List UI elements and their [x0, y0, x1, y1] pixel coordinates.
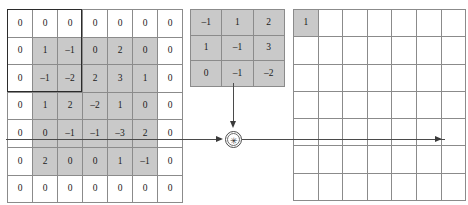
input-matrix-row: 00–1–1–320	[8, 120, 183, 148]
convolution-operator: ✳	[225, 131, 242, 148]
matrix-cell: 0	[33, 10, 58, 38]
matrix-cell: 0	[33, 120, 58, 148]
matrix-cell: –3	[108, 120, 133, 148]
matrix-cell: 2	[83, 65, 108, 93]
matrix-cell: 2	[33, 147, 58, 175]
matrix-cell	[294, 37, 319, 64]
matrix-cell	[416, 91, 441, 118]
output-matrix-row	[294, 37, 466, 64]
matrix-cell: –1	[191, 10, 222, 36]
arrowhead-kernel-into-operator	[230, 121, 236, 128]
matrix-cell: 2	[58, 92, 83, 120]
matrix-cell	[318, 64, 343, 91]
kernel-matrix-row: 1–13	[191, 35, 285, 61]
matrix-cell: 0	[108, 10, 133, 38]
kernel-matrix-row: –112	[191, 10, 285, 36]
input-matrix-row: 0000000	[8, 175, 183, 203]
arrowhead-into-operator	[216, 136, 223, 142]
matrix-cell: 0	[83, 175, 108, 203]
input-matrix-row: 01–10200	[8, 37, 183, 65]
matrix-cell	[318, 119, 343, 146]
matrix-cell	[441, 10, 466, 37]
convolution-diagram: 000000001–102000–1–22310012–210000–1–1–3…	[0, 0, 468, 205]
matrix-cell: 1	[33, 92, 58, 120]
matrix-cell: –2	[58, 65, 83, 93]
matrix-cell	[343, 64, 368, 91]
matrix-cell	[392, 173, 417, 200]
matrix-cell: –1	[83, 120, 108, 148]
matrix-cell	[416, 37, 441, 64]
matrix-cell: 0	[133, 92, 158, 120]
matrix-cell	[416, 173, 441, 200]
matrix-cell: 0	[8, 10, 33, 38]
matrix-cell	[294, 119, 319, 146]
matrix-cell: –1	[33, 65, 58, 93]
matrix-cell	[441, 37, 466, 64]
matrix-cell: 0	[8, 37, 33, 65]
matrix-cell: 2	[108, 37, 133, 65]
matrix-cell	[318, 37, 343, 64]
matrix-cell: –1	[58, 37, 83, 65]
matrix-cell: 0	[158, 92, 183, 120]
matrix-cell	[367, 10, 392, 37]
matrix-cell	[392, 91, 417, 118]
matrix-cell	[318, 173, 343, 200]
matrix-cell: 0	[8, 120, 33, 148]
matrix-cell: 2	[133, 120, 158, 148]
matrix-cell	[367, 91, 392, 118]
matrix-cell: 0	[133, 10, 158, 38]
output-matrix-row	[294, 119, 466, 146]
matrix-cell	[343, 10, 368, 37]
input-matrix-row: 012–2100	[8, 92, 183, 120]
output-matrix-row	[294, 173, 466, 200]
matrix-cell: –1	[133, 147, 158, 175]
matrix-cell	[294, 64, 319, 91]
matrix-cell	[367, 37, 392, 64]
arrowhead-into-output	[435, 136, 442, 142]
matrix-cell: –1	[58, 120, 83, 148]
wire-input-to-operator	[6, 139, 218, 140]
matrix-cell	[318, 146, 343, 173]
matrix-cell: 1	[108, 147, 133, 175]
output-matrix-row	[294, 91, 466, 118]
matrix-cell	[441, 64, 466, 91]
output-matrix: 1	[293, 9, 466, 201]
matrix-cell: 0	[158, 175, 183, 203]
kernel-matrix-row: 0–1–2	[191, 61, 285, 87]
input-matrix-row: 02001–10	[8, 147, 183, 175]
matrix-cell: 0	[133, 175, 158, 203]
matrix-cell	[367, 119, 392, 146]
output-matrix-row	[294, 64, 466, 91]
matrix-cell: –2	[83, 92, 108, 120]
matrix-cell	[343, 91, 368, 118]
matrix-cell: 1	[133, 65, 158, 93]
matrix-cell: 0	[158, 65, 183, 93]
matrix-cell	[441, 91, 466, 118]
matrix-cell	[416, 10, 441, 37]
matrix-cell: –1	[222, 61, 253, 87]
matrix-cell	[367, 64, 392, 91]
matrix-cell	[294, 146, 319, 173]
padded-input-matrix: 000000001–102000–1–22310012–210000–1–1–3…	[7, 9, 183, 203]
matrix-cell: 0	[58, 175, 83, 203]
matrix-cell: 0	[158, 10, 183, 38]
matrix-cell	[416, 119, 441, 146]
asterisk-icon: ✳	[225, 131, 242, 148]
convolution-kernel: –1121–130–1–2	[190, 9, 285, 87]
matrix-cell	[343, 37, 368, 64]
matrix-cell: –1	[222, 35, 253, 61]
output-matrix-row: 1	[294, 10, 466, 37]
matrix-cell	[294, 173, 319, 200]
matrix-cell	[441, 146, 466, 173]
matrix-cell: 1	[33, 37, 58, 65]
matrix-cell: 1	[222, 10, 253, 36]
matrix-cell: 0	[191, 61, 222, 87]
wire-operator-to-output	[242, 139, 445, 140]
matrix-cell	[416, 146, 441, 173]
output-matrix-row	[294, 146, 466, 173]
matrix-cell: 0	[58, 147, 83, 175]
wire-kernel-to-operator	[233, 83, 234, 121]
matrix-cell	[392, 37, 417, 64]
matrix-cell: 0	[108, 175, 133, 203]
input-matrix-row: 0–1–22310	[8, 65, 183, 93]
